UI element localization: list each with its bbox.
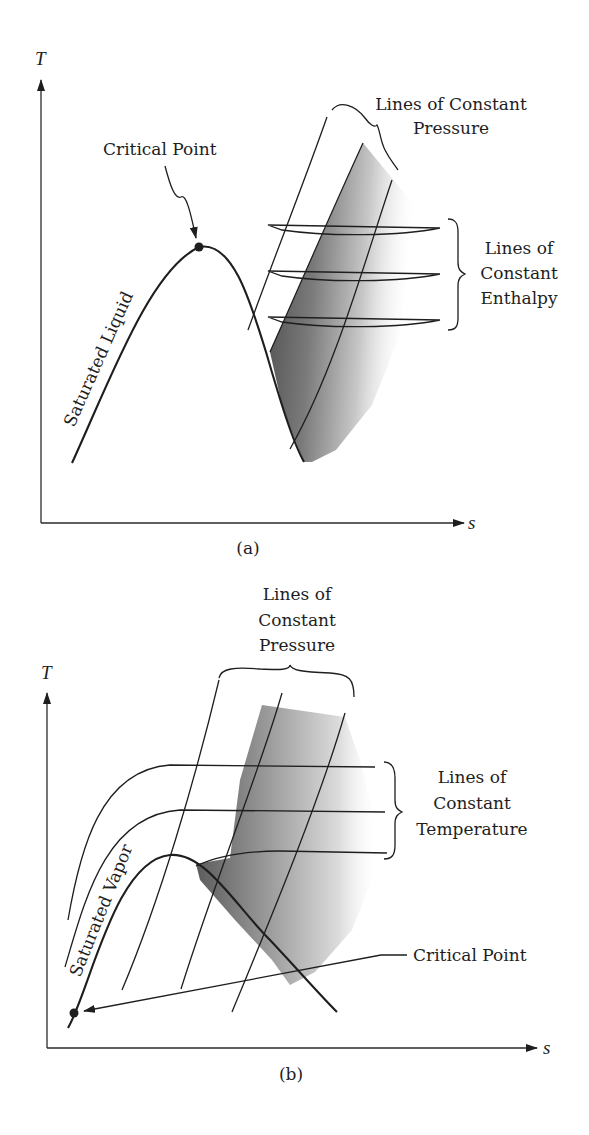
critical-point-label-a: Critical Point (103, 139, 217, 159)
ts-diagram-figure: T s Critical Point Saturated Liquid Line… (0, 0, 589, 1135)
saturated-vapor-label: Saturated Vapor (65, 840, 137, 979)
x-axis-label-b: s (543, 1037, 550, 1058)
pressure-brace-b (219, 665, 354, 697)
saturated-liquid-label: Saturated Liquid (59, 288, 137, 430)
pressure-lines-label-b-3: Pressure (259, 635, 335, 655)
temperature-lines-label-1: Lines of (438, 767, 508, 787)
critical-point-pointer-a (165, 166, 196, 238)
critical-point-marker-b (70, 1009, 79, 1018)
enthalpy-lines-label-1: Lines of (485, 238, 555, 258)
pressure-lines-label-a-1: Lines of Constant (375, 94, 527, 114)
y-axis-label-a: T (35, 48, 47, 69)
critical-point-marker-a (195, 243, 204, 252)
pressure-line-b-1 (122, 680, 219, 990)
caption-a: (a) (236, 538, 259, 558)
panel-b: T s Saturated Vapor Critical Point Lines… (41, 584, 550, 1084)
pressure-lines-label-a-2: Pressure (413, 118, 489, 138)
temperature-lines-label-3: Temperature (416, 819, 527, 839)
enthalpy-lines-label-2: Constant (480, 263, 558, 283)
critical-point-label-b: Critical Point (413, 945, 527, 965)
temperature-lines-label-2: Constant (433, 793, 511, 813)
temperature-brace-b (384, 762, 402, 859)
x-axis-label-a: s (468, 512, 475, 533)
pressure-lines-label-b-2: Constant (258, 610, 336, 630)
caption-b: (b) (279, 1064, 303, 1084)
pressure-lines-label-b-1: Lines of (263, 584, 333, 604)
enthalpy-lines-label-3: Enthalpy (480, 288, 558, 308)
panel-a: T s Critical Point Saturated Liquid Line… (35, 48, 558, 558)
enthalpy-brace-a (448, 219, 465, 330)
y-axis-label-b: T (41, 662, 53, 683)
shaded-region-b (196, 705, 375, 985)
